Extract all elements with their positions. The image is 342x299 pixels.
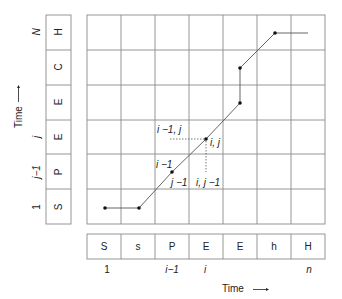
arrow-right-icon [253, 288, 269, 291]
annotation-i-minus-1-j: i −1, j [157, 124, 182, 135]
annotation-j-minus-1: j −1 [169, 177, 187, 188]
path-point-2 [137, 206, 141, 210]
annotation-i-j-minus-1: i, j −1 [196, 177, 220, 188]
annotation-i-j: i, j [210, 137, 221, 148]
path-point-6 [238, 66, 242, 70]
path-point-5 [238, 101, 242, 105]
vseq-cell-h: H [53, 28, 64, 35]
alignment-grid [87, 15, 325, 224]
hseq-cell-2: s [136, 241, 141, 252]
horizontal-time-text: Time [222, 283, 244, 294]
hseq-cell-3: P [169, 241, 176, 252]
path-point-7 [273, 31, 277, 35]
hseq-cell-6: h [271, 241, 277, 252]
annotation-i-minus-1: i −1 [156, 159, 172, 170]
horizontal-time-label: Time [222, 283, 269, 294]
vindex-j: j [31, 135, 42, 140]
path-point-4 [204, 137, 208, 141]
hindex-1: 1 [104, 264, 110, 275]
vindex-j-minus-1: j−1 [31, 165, 42, 181]
hindex-i-minus-1: i−1 [165, 264, 179, 275]
vseq-cell-e1: E [53, 133, 64, 140]
vseq-cell-s: S [53, 203, 64, 210]
alignment-diagram: H C E E P S N j j−1 1 Time [0, 0, 342, 299]
arrow-up-icon [17, 85, 20, 102]
path-point-1 [103, 206, 107, 210]
hseq-cell-5: E [237, 241, 244, 252]
path-point-3 [170, 170, 174, 174]
vertical-time-label: Time [13, 85, 24, 128]
hseq-cell-7: H [304, 241, 311, 252]
horizontal-sequence-box: S s P E E h H [87, 234, 325, 259]
vseq-cell-e2: E [53, 98, 64, 105]
vertical-sequence-box: H C E E P S [46, 15, 71, 224]
vseq-cell-c: C [53, 63, 64, 70]
vertical-time-text: Time [13, 106, 24, 128]
hindex-n: n [306, 264, 312, 275]
vindex-n: N [31, 28, 42, 36]
vseq-cell-p: P [53, 168, 64, 175]
hseq-cell-4: E [203, 241, 210, 252]
vertical-index-labels: N j j−1 1 [31, 28, 42, 210]
horizontal-index-labels: 1 i−1 i n [104, 264, 312, 275]
vindex-1: 1 [31, 204, 42, 210]
hindex-i: i [204, 264, 207, 275]
hseq-cell-1: S [101, 241, 108, 252]
